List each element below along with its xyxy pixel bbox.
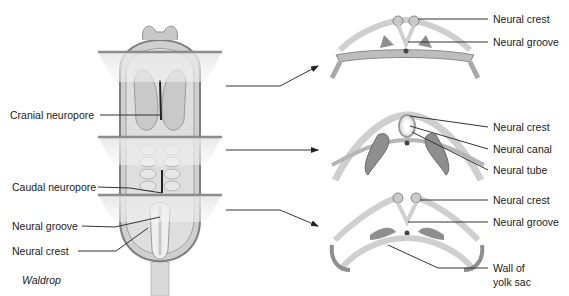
label-neural-groove-left: Neural groove [12, 220, 78, 232]
illustrator-credit: Waldrop [22, 274, 61, 286]
label-section3-neural-groove: Neural groove [493, 216, 559, 228]
label-section3-wall-of: Wall of [493, 262, 525, 274]
section-planes [98, 52, 222, 222]
label-section1-neural-groove: Neural groove [493, 36, 559, 48]
label-section2-neural-crest: Neural crest [493, 121, 550, 133]
embryo-illustration [0, 0, 569, 296]
section-arrows [226, 66, 318, 226]
cross-section-bottom [332, 193, 483, 270]
label-section2-neural-canal: Neural canal [493, 143, 552, 155]
label-caudal-neuropore: Caudal neuropore [12, 181, 96, 193]
label-section2-neural-tube: Neural tube [493, 164, 547, 176]
cross-section-top [332, 16, 478, 78]
label-section1-neural-crest: Neural crest [493, 13, 550, 25]
label-section3-yolk-sac: yolk sac [493, 276, 531, 288]
cross-section-middle [332, 115, 484, 180]
label-section3-neural-crest: Neural crest [493, 194, 550, 206]
figure-stage: Cranial neuropore Caudal neuropore Neura… [0, 0, 569, 296]
label-neural-crest-left: Neural crest [12, 245, 69, 257]
label-cranial-neuropore: Cranial neuropore [10, 109, 94, 121]
